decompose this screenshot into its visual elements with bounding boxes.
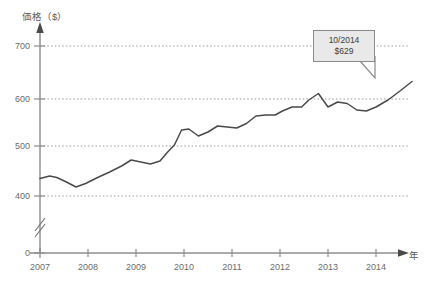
x-tick-label-2010: 2010 [164, 262, 204, 272]
callout-value: $629 [335, 46, 354, 57]
y-tick-label-0: 0 [4, 248, 30, 258]
x-tick-label-2009: 2009 [116, 262, 156, 272]
x-tick-label-2007: 2007 [20, 262, 60, 272]
y-tick-label-500: 500 [4, 141, 30, 151]
y-axis [34, 22, 45, 253]
callout-date: 10/2014 [329, 35, 360, 46]
x-axis [30, 248, 409, 258]
price-line-chart: 価格（$） 年 700 600 500 400 0 2007 2008 2009… [0, 0, 426, 285]
y-tick-label-400: 400 [4, 191, 30, 201]
x-axis-title: 年 [409, 248, 419, 262]
y-tick-label-600: 600 [4, 94, 30, 104]
y-axis-title: 価格（$） [22, 9, 67, 23]
y-tick-label-700: 700 [4, 41, 30, 51]
x-tick-label-2011: 2011 [212, 262, 252, 272]
gridlines [40, 46, 408, 196]
x-tick-label-2013: 2013 [308, 262, 348, 272]
price-series-line [40, 82, 412, 188]
x-tick-label-2008: 2008 [68, 262, 108, 272]
x-tick-label-2014: 2014 [356, 262, 396, 272]
data-point-callout: 10/2014 $629 [313, 30, 375, 62]
x-tick-label-2012: 2012 [260, 262, 300, 272]
